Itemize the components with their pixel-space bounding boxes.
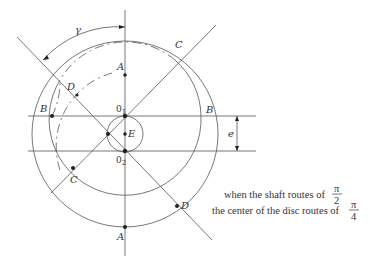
label-c-right: C xyxy=(175,39,183,50)
diagram-canvas: A A B B C C D D E 01 02 γ e when the sha… xyxy=(0,0,370,270)
angle-gamma-arc xyxy=(43,27,125,60)
point-e xyxy=(123,132,127,136)
arrowhead-left-icon xyxy=(43,55,49,60)
point-c-left xyxy=(71,166,75,170)
point-a-bottom xyxy=(123,225,127,229)
point-d-left xyxy=(75,93,78,96)
label-b-left: B xyxy=(39,103,47,114)
label-a-top: A xyxy=(116,61,124,72)
label-b-right: B xyxy=(205,104,213,115)
inner-circle-arc-right xyxy=(175,60,201,116)
point-b-left xyxy=(50,114,54,118)
label-a-bottom: A xyxy=(116,231,124,242)
dashed-arc-d xyxy=(56,73,112,170)
label-c-left: C xyxy=(70,174,78,185)
dim-arrow-down-icon xyxy=(235,146,239,151)
label-d-left: D xyxy=(66,81,75,92)
geometry-figure: A A B B C C D D E 01 02 γ e when the sha… xyxy=(0,0,370,270)
point-a-top xyxy=(123,73,127,77)
label-d-right: D xyxy=(180,200,189,211)
dim-arrow-up-icon xyxy=(235,116,239,121)
caption-frac1-num: π xyxy=(334,183,340,194)
arrowhead-right-icon xyxy=(119,25,125,29)
point-o2 xyxy=(123,149,127,153)
point-d-right xyxy=(175,204,179,208)
label-e-offset: e xyxy=(228,128,234,139)
caption-frac2-num: π xyxy=(351,199,357,210)
diagonal-line-c xyxy=(51,25,216,193)
point-intersection xyxy=(106,132,110,136)
caption-frac2-den: 4 xyxy=(351,211,357,222)
caption-line1: when the shaft routes of xyxy=(224,189,325,200)
caption-line2: the center of the disc routes of xyxy=(212,205,340,216)
label-e: E xyxy=(127,128,136,139)
inner-circle-dashed-left xyxy=(52,80,60,116)
label-gamma: γ xyxy=(75,24,81,35)
